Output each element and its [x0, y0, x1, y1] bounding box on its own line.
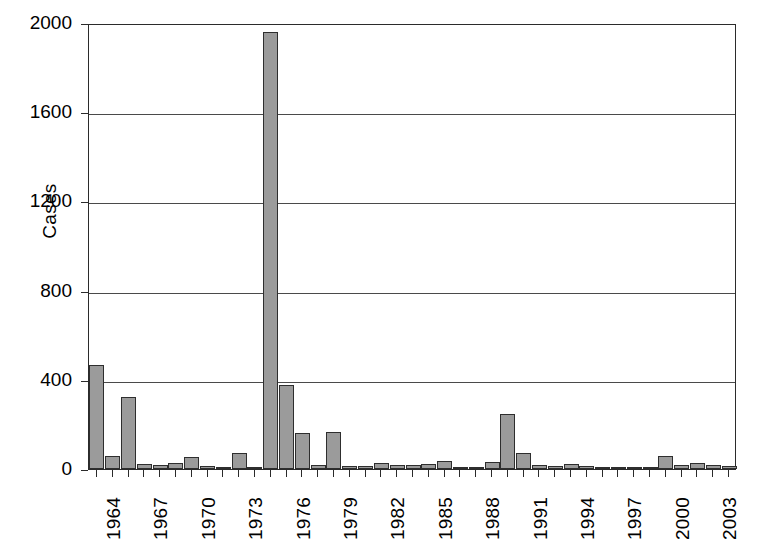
y-tick-label-800: 800 — [10, 280, 72, 302]
bar — [232, 453, 247, 469]
x-tick-mark-1994 — [570, 470, 571, 477]
bar — [564, 464, 579, 469]
bar — [137, 464, 152, 469]
x-tick-mark-2002 — [696, 470, 697, 477]
y-tick-mark-1200 — [81, 202, 88, 203]
y-tick-mark-2000 — [81, 24, 88, 25]
x-tick-mark-1993 — [554, 470, 555, 477]
y-tick-mark-800 — [81, 292, 88, 293]
x-tick-mark-1988 — [475, 470, 476, 477]
bar — [595, 467, 610, 469]
bar — [532, 465, 547, 469]
x-tick-label-2003: 2003 — [719, 497, 741, 540]
x-tick-mark-1969 — [175, 470, 176, 477]
x-tick-mark-2001 — [681, 470, 682, 477]
bar — [358, 466, 373, 469]
bar — [548, 466, 563, 469]
bar — [247, 467, 262, 469]
bar — [643, 467, 658, 469]
x-tick-label-1985: 1985 — [435, 497, 457, 540]
x-tick-mark-1964 — [96, 470, 97, 477]
bar — [326, 432, 341, 469]
bar — [611, 467, 626, 469]
x-tick-label-1988: 1988 — [482, 497, 504, 540]
x-tick-mark-1981 — [365, 470, 366, 477]
x-tick-mark-1973 — [238, 470, 239, 477]
bar — [216, 467, 231, 469]
bar — [200, 466, 215, 469]
x-tick-mark-1997 — [617, 470, 618, 477]
x-tick-label-1991: 1991 — [530, 497, 552, 540]
x-tick-mark-1970 — [191, 470, 192, 477]
bar — [469, 467, 484, 469]
x-tick-mark-1998 — [633, 470, 634, 477]
x-tick-label-1976: 1976 — [293, 497, 315, 540]
bar — [627, 467, 642, 469]
bar-series — [89, 25, 735, 469]
bar — [295, 433, 310, 469]
x-tick-label-1967: 1967 — [150, 497, 172, 540]
bar — [516, 453, 531, 469]
x-tick-mark-1968 — [159, 470, 160, 477]
x-tick-label-1973: 1973 — [245, 497, 267, 540]
x-tick-mark-1976 — [286, 470, 287, 477]
x-tick-mark-2000 — [665, 470, 666, 477]
x-tick-mark-1980 — [349, 470, 350, 477]
x-tick-label-1982: 1982 — [387, 497, 409, 540]
x-tick-mark-1991 — [523, 470, 524, 477]
bar — [421, 464, 436, 469]
x-tick-label-1970: 1970 — [198, 497, 220, 540]
bar — [658, 456, 673, 469]
bar — [153, 465, 168, 469]
x-tick-mark-1983 — [396, 470, 397, 477]
x-tick-mark-1972 — [222, 470, 223, 477]
x-tick-mark-1975 — [270, 470, 271, 477]
x-tick-mark-2003 — [712, 470, 713, 477]
bar — [374, 463, 389, 469]
x-tick-mark-1965 — [112, 470, 113, 477]
x-tick-mark-1974 — [254, 470, 255, 477]
x-tick-mark-2004 — [728, 470, 729, 477]
x-tick-label-1997: 1997 — [624, 497, 646, 540]
bar — [579, 466, 594, 469]
x-tick-mark-1967 — [143, 470, 144, 477]
x-tick-mark-1977 — [301, 470, 302, 477]
bar — [690, 463, 705, 469]
plot-area — [88, 24, 736, 470]
x-tick-mark-1966 — [128, 470, 129, 477]
y-tick-label-1600: 1600 — [10, 101, 72, 123]
x-tick-label-1979: 1979 — [340, 497, 362, 540]
bar-chart: Cases 0400800120016002000 19641967197019… — [0, 0, 769, 542]
bar — [453, 467, 468, 469]
bar — [184, 457, 199, 469]
x-tick-mark-1979 — [333, 470, 334, 477]
x-tick-mark-1978 — [317, 470, 318, 477]
x-tick-label-1964: 1964 — [103, 497, 125, 540]
x-tick-mark-1987 — [459, 470, 460, 477]
y-tick-label-1200: 1200 — [10, 190, 72, 212]
bar — [406, 465, 421, 469]
bar — [722, 466, 737, 469]
y-tick-label-0: 0 — [10, 458, 72, 480]
x-tick-mark-1971 — [207, 470, 208, 477]
y-tick-mark-1600 — [81, 113, 88, 114]
bar — [311, 465, 326, 469]
x-tick-mark-1982 — [380, 470, 381, 477]
y-tick-label-2000: 2000 — [10, 12, 72, 34]
y-tick-mark-0 — [81, 470, 88, 471]
bar — [89, 365, 104, 469]
x-tick-mark-1989 — [491, 470, 492, 477]
bar — [279, 385, 294, 469]
x-tick-mark-1990 — [507, 470, 508, 477]
bar — [263, 32, 278, 469]
bar — [500, 414, 515, 469]
x-tick-mark-1992 — [538, 470, 539, 477]
bar — [485, 462, 500, 469]
y-tick-mark-400 — [81, 381, 88, 382]
x-tick-label-2000: 2000 — [672, 497, 694, 540]
x-tick-mark-1985 — [428, 470, 429, 477]
y-tick-label-400: 400 — [10, 369, 72, 391]
x-tick-mark-1984 — [412, 470, 413, 477]
bar — [168, 463, 183, 469]
bar — [437, 461, 452, 469]
